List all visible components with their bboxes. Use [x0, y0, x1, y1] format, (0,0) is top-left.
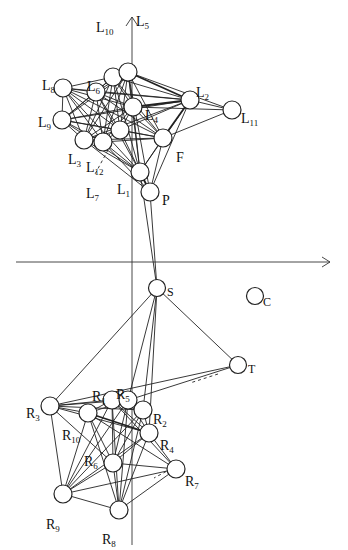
label-r3: R3 [26, 406, 40, 423]
node-p [141, 183, 159, 201]
node-l1 [131, 163, 149, 181]
label-r6: R6 [84, 454, 98, 471]
edge-R3-R9 [50, 406, 63, 494]
label-l7: L7 [86, 186, 100, 203]
node-l4 [124, 98, 142, 116]
node-l12 [94, 133, 112, 151]
node-r8 [110, 501, 128, 519]
label-r5: R5 [116, 387, 130, 404]
label-r1: R1 [92, 389, 106, 406]
node-r2 [134, 401, 152, 419]
edge-S-T [157, 288, 238, 365]
label-r10: R10 [62, 428, 81, 445]
node-r6 [104, 454, 122, 472]
node-r7 [167, 460, 185, 478]
label-t: T [248, 362, 256, 376]
label-c: C [263, 295, 271, 309]
dashed-edge [190, 374, 218, 383]
node-s [149, 280, 166, 297]
label-l2: L2 [196, 85, 209, 102]
label-f: F [176, 150, 184, 165]
label-l5: L5 [136, 14, 150, 31]
edge-S-R3 [50, 288, 157, 406]
label-r9: R9 [46, 517, 60, 534]
node-r10 [79, 404, 97, 422]
network-diagram: L10L5L8L6L9L4L2L11L3L12FL1PSCTR3R1R5R2R1… [0, 0, 348, 550]
node-r9 [54, 485, 72, 503]
node-f [154, 129, 172, 147]
label-l4: L4 [145, 108, 159, 125]
label-s: S [167, 285, 174, 299]
label-r7: R7 [185, 474, 199, 491]
label-r2: R2 [153, 412, 167, 429]
label-l11: L11 [241, 111, 258, 128]
label-l8: L8 [42, 78, 56, 95]
node-t [230, 357, 247, 374]
node-l3 [75, 131, 93, 149]
node-r3 [41, 397, 59, 415]
label-l10: L10 [96, 20, 114, 37]
node-l8 [54, 79, 72, 97]
node-lc [111, 121, 129, 139]
node-l9 [53, 111, 71, 129]
node-c [247, 288, 264, 305]
label-l1: L1 [117, 182, 130, 199]
label-l6: L6 [87, 79, 101, 96]
label-r4: R4 [160, 438, 174, 455]
label-l3: L3 [68, 152, 82, 169]
node-l11 [223, 101, 241, 119]
node-l5 [119, 63, 137, 81]
label-l9: L9 [38, 115, 52, 132]
edge-P-S [150, 192, 157, 288]
edge-L2-P [150, 100, 190, 192]
edge-R5-R8 [119, 400, 128, 510]
label-r8: R8 [102, 532, 116, 549]
label-p: P [162, 193, 170, 208]
